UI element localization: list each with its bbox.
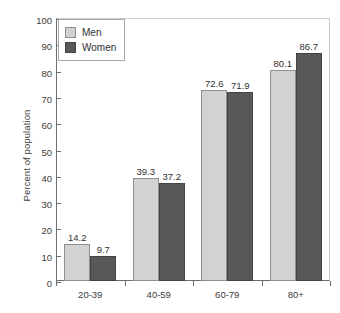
legend-item-women: Women (65, 40, 116, 55)
bar-women-60-79: 71.9 (227, 92, 253, 281)
y-tick: 80 (41, 63, 57, 81)
y-tick-label: 50 (41, 147, 57, 158)
y-tick-label: 30 (41, 199, 57, 210)
bar-group: 72.671.9 (201, 18, 253, 281)
y-tick-label: 90 (41, 41, 57, 52)
bar-men-40-59: 39.3 (133, 178, 159, 281)
legend-label-men: Men (82, 27, 101, 38)
legend-item-men: Men (65, 25, 116, 40)
x-tick-mark (56, 281, 57, 286)
bar-group: 80.186.7 (270, 18, 322, 281)
bar-value-label: 71.9 (231, 80, 250, 91)
y-tick: 30 (41, 194, 57, 212)
bar-value-label: 14.2 (68, 232, 87, 243)
y-tick-label: 40 (41, 173, 57, 184)
legend: Men Women (58, 19, 125, 61)
y-tick: 10 (41, 247, 57, 265)
y-tick-label: 100 (36, 15, 57, 26)
x-axis-category-label: 40-59 (147, 289, 171, 300)
x-tick-mark (330, 281, 331, 286)
y-tick-label: 60 (41, 120, 57, 131)
x-tick-mark (193, 281, 194, 286)
bar-value-label: 9.7 (97, 244, 110, 255)
bar-value-label: 37.2 (163, 171, 182, 182)
legend-label-women: Women (82, 42, 116, 53)
bar-value-label: 80.1 (274, 58, 293, 69)
bar-women-80+: 86.7 (296, 53, 322, 281)
y-tick: 90 (41, 36, 57, 54)
y-tick-label: 80 (41, 68, 57, 79)
y-tick: 60 (41, 115, 57, 133)
y-tick: 100 (36, 10, 57, 28)
y-tick: 20 (41, 220, 57, 238)
y-tick-label: 10 (41, 252, 57, 263)
bar-men-80+: 80.1 (270, 70, 296, 281)
y-tick-label: 70 (41, 94, 57, 105)
bar-men-60-79: 72.6 (201, 90, 227, 281)
legend-swatch-men-icon (65, 27, 76, 38)
x-tick-mark (262, 281, 263, 286)
y-axis-title: Percent of population (21, 56, 32, 256)
y-tick-mark (57, 282, 61, 283)
x-axis-category-label: 60-79 (215, 289, 239, 300)
bar-value-label: 72.6 (205, 78, 224, 89)
bar-women-20-39: 9.7 (90, 256, 116, 282)
bar-men-20-39: 14.2 (64, 244, 90, 281)
x-axis-category-label: 20-39 (78, 289, 102, 300)
y-tick: 50 (41, 142, 57, 160)
bar-chart: Percent of population 010203040506070809… (0, 0, 340, 313)
legend-swatch-women-icon (65, 42, 76, 53)
bar-value-label: 86.7 (300, 41, 319, 52)
y-tick: 70 (41, 89, 57, 107)
x-axis-category-label: 80+ (288, 289, 304, 300)
x-tick-mark (125, 281, 126, 286)
y-tick-label: 20 (41, 225, 57, 236)
bar-group: 39.337.2 (133, 18, 185, 281)
bar-women-40-59: 37.2 (159, 183, 185, 281)
y-tick: 40 (41, 168, 57, 186)
bar-value-label: 39.3 (137, 166, 156, 177)
